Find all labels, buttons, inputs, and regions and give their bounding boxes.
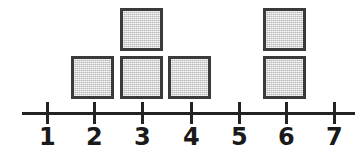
- axis-tick-2: [93, 102, 96, 124]
- axis-tick-1: [46, 102, 49, 124]
- axis-tick-6: [285, 102, 288, 124]
- axis-tick-label-5: 5: [224, 124, 254, 150]
- data-square: [263, 8, 306, 51]
- dot-plot-chart: 1 2 3 4 5 6 7: [0, 0, 363, 161]
- number-line-axis: [22, 112, 355, 115]
- axis-tick-7: [333, 102, 336, 124]
- axis-tick-label-6: 6: [271, 124, 301, 150]
- axis-tick-label-2: 2: [79, 124, 109, 150]
- axis-tick-label-4: 4: [176, 124, 206, 150]
- axis-tick-5: [238, 102, 241, 124]
- data-square: [168, 56, 211, 99]
- axis-tick-label-3: 3: [127, 124, 157, 150]
- axis-tick-4: [190, 102, 193, 124]
- axis-tick-label-1: 1: [32, 124, 62, 150]
- axis-tick-label-7: 7: [319, 124, 349, 150]
- data-square: [71, 56, 114, 99]
- data-square: [120, 8, 163, 51]
- data-square: [263, 56, 306, 99]
- axis-tick-3: [141, 102, 144, 124]
- data-square: [120, 56, 163, 99]
